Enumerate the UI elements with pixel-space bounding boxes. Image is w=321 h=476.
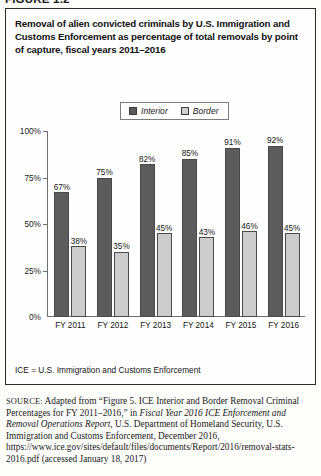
legend-item-interior: Interior (129, 106, 168, 116)
legend-item-border: Border (181, 106, 219, 116)
x-tick-label: FY 2013 (134, 321, 177, 330)
bar-group: 82%45% (134, 131, 177, 317)
source-note: SOURCE: Adapted from “Figure 5. ICE Inte… (6, 396, 316, 466)
bar-interior-fy-2014[interactable]: 85% (182, 159, 197, 317)
x-tick-label: FY 2012 (92, 321, 135, 330)
bar-interior-fy-2016[interactable]: 92% (268, 146, 283, 317)
bar-group: 67%38% (49, 131, 92, 317)
figure-title: Removal of alien convicted criminals by … (15, 17, 307, 57)
legend-label-border: Border (193, 106, 219, 116)
figure-note: ICE = U.S. Immigration and Customs Enfor… (15, 365, 201, 375)
y-tick-mark (43, 271, 47, 272)
x-tick-label: FY 2011 (49, 321, 92, 330)
y-tick-mark (43, 224, 47, 225)
bar-value-label: 85% (182, 149, 198, 158)
y-axis-line (47, 131, 48, 317)
bar-value-label: 75% (96, 168, 112, 177)
legend-swatch-interior-icon (129, 107, 137, 115)
y-tick-mark (43, 178, 47, 179)
y-tick-label: 100% (20, 126, 41, 136)
bar-group: 92%45% (262, 131, 305, 317)
bar-value-label: 38% (71, 237, 87, 246)
bar-value-label: 67% (54, 183, 70, 192)
plot-area: 0%25%50%75%100% 67%38%75%35%82%45%85%43%… (15, 131, 309, 353)
x-tick-label: FY 2016 (262, 321, 305, 330)
figure-number: FIGURE 1.2 (5, 0, 70, 5)
bar-value-label: 91% (224, 138, 240, 147)
bar-interior-fy-2011[interactable]: 67% (54, 192, 69, 317)
legend-swatch-border-icon (181, 107, 189, 115)
bar-value-label: 82% (139, 155, 155, 164)
bar-value-label: 45% (156, 224, 172, 233)
bar-value-label: 46% (241, 222, 257, 231)
y-tick-label: 25% (24, 266, 41, 276)
y-axis: 0%25%50%75%100% (15, 131, 45, 317)
bar-border-fy-2016[interactable]: 45% (285, 233, 300, 317)
bar-interior-fy-2013[interactable]: 82% (140, 164, 155, 317)
figure-box: Removal of alien convicted criminals by … (5, 8, 316, 385)
bar-group: 75%35% (92, 131, 135, 317)
chart-legend: Interior Border (120, 102, 229, 120)
legend-label-interior: Interior (141, 106, 168, 116)
bar-value-label: 45% (284, 224, 300, 233)
y-tick-label: 50% (24, 219, 41, 229)
bar-group: 85%43% (177, 131, 220, 317)
bar-border-fy-2011[interactable]: 38% (71, 246, 86, 317)
bar-border-fy-2014[interactable]: 43% (199, 237, 214, 317)
bar-value-label: 43% (199, 228, 215, 237)
bar-interior-fy-2015[interactable]: 91% (225, 148, 240, 317)
bar-value-label: 35% (113, 242, 129, 251)
bar-border-fy-2015[interactable]: 46% (242, 231, 257, 317)
figure-page: FIGURE 1.2 Removal of alien convicted cr… (0, 0, 321, 476)
source-keyword: SOURCE: (6, 397, 43, 406)
x-tick-label: FY 2015 (220, 321, 263, 330)
y-tick-mark (43, 131, 47, 132)
bar-interior-fy-2012[interactable]: 75% (97, 178, 112, 318)
x-tick-label: FY 2014 (177, 321, 220, 330)
bar-border-fy-2013[interactable]: 45% (157, 233, 172, 317)
y-tick-label: 75% (24, 173, 41, 183)
bar-value-label: 92% (267, 136, 283, 145)
bar-groups: 67%38%75%35%82%45%85%43%91%46%92%45% (49, 131, 305, 317)
bar-border-fy-2012[interactable]: 35% (114, 252, 129, 317)
x-axis-labels: FY 2011FY 2012FY 2013FY 2014FY 2015FY 20… (49, 321, 305, 330)
bar-group: 91%46% (220, 131, 263, 317)
y-tick-label: 0% (29, 312, 41, 322)
